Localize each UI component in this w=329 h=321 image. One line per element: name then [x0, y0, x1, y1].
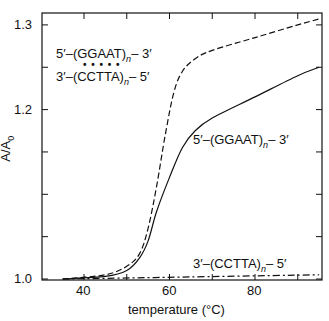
dashdot-curve-label: 3′–(CCTTA)n– 5′ [193, 256, 286, 274]
x-tick-60: 60 [162, 283, 176, 298]
y-tick-1.2: 1.2 [14, 102, 32, 117]
duplex-label-bottom: 3′–(CCTTA)n– 5′ [56, 69, 149, 87]
y-axis-label: A/A0 [0, 136, 16, 162]
series-line-1 [63, 67, 320, 279]
y-tick-1.3: 1.3 [14, 17, 32, 32]
y-axis-label-sub: 0 [6, 136, 16, 141]
x-axis-label: temperature (°C) [128, 302, 225, 317]
x-tick-80: 80 [247, 283, 261, 298]
y-axis-label-text: A/A [0, 141, 13, 162]
x-tick-40: 40 [76, 283, 90, 298]
solid-curve-label: 5′–(GGAAT)n– 3′ [193, 132, 289, 150]
y-tick-1.0: 1.0 [14, 271, 32, 286]
